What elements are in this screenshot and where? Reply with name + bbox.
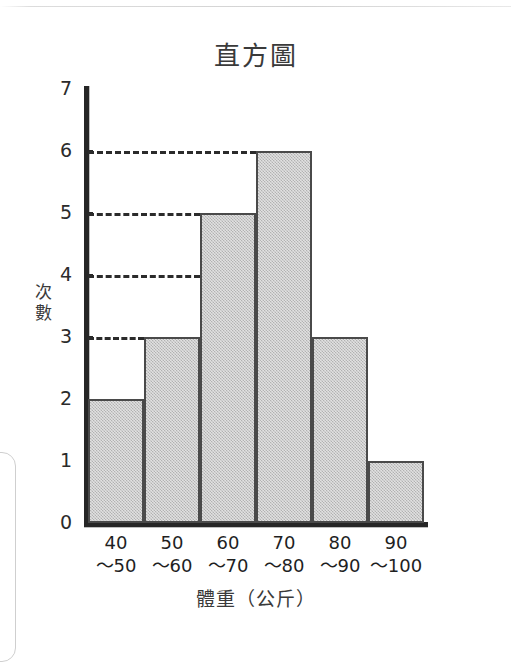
x-category-lower: 60 [200, 531, 256, 554]
y-tick-label-2: 2 [46, 387, 72, 409]
x-category-upper: 〜80 [256, 554, 312, 577]
x-category-label-90〜100: 90〜100 [368, 531, 424, 577]
y-tick-label-3: 3 [46, 325, 72, 347]
histogram-bar [88, 399, 144, 523]
y-tick-label-5: 5 [46, 201, 72, 223]
histogram-bar [200, 213, 256, 523]
y-tick-label-4: 4 [46, 263, 72, 285]
histogram-bar [256, 151, 312, 523]
x-category-upper: 〜90 [312, 554, 368, 577]
chart-title: 直方圖 [0, 35, 511, 72]
y-axis-title: 次 數 [30, 282, 56, 324]
x-category-lower: 80 [312, 531, 368, 554]
y-tick-label-6: 6 [46, 139, 72, 161]
x-category-label-80〜90: 80〜90 [312, 531, 368, 577]
y-tick-label-0: 0 [46, 511, 72, 533]
histogram-bar [312, 337, 368, 523]
x-category-label-40〜50: 40〜50 [88, 531, 144, 577]
x-category-lower: 50 [144, 531, 200, 554]
y-axis-title-char-1: 次 [30, 282, 56, 303]
x-category-lower: 70 [256, 531, 312, 554]
y-tick-label-1: 1 [46, 449, 72, 471]
x-category-upper: 〜60 [144, 554, 200, 577]
x-category-upper: 〜100 [368, 554, 424, 577]
x-category-lower: 40 [88, 531, 144, 554]
x-axis-title: 體重（公斤） [0, 584, 511, 611]
x-category-label-60〜70: 60〜70 [200, 531, 256, 577]
histogram-bar [144, 337, 200, 523]
x-category-upper: 〜50 [88, 554, 144, 577]
y-tick-label-7: 7 [46, 77, 72, 99]
y-axis-title-char-2: 數 [30, 303, 56, 324]
x-category-label-50〜60: 50〜60 [144, 531, 200, 577]
histogram-bar [368, 461, 424, 523]
plot-area [88, 89, 424, 523]
x-category-label-70〜80: 70〜80 [256, 531, 312, 577]
x-category-lower: 90 [368, 531, 424, 554]
x-category-upper: 〜70 [200, 554, 256, 577]
